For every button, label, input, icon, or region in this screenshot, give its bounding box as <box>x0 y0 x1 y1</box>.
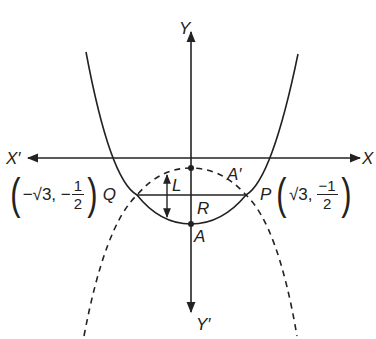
point-q-coordinate: ( −√3, − 1 2 ) Q <box>8 172 119 216</box>
p-y-numerator: −1 <box>317 178 338 195</box>
left-paren: ( <box>277 172 287 216</box>
right-paren: ) <box>87 172 97 216</box>
y-prime-axis-label: Y′ <box>196 316 211 333</box>
x-prime-axis-label: X′ <box>6 150 21 167</box>
point-p-coordinate: P ( √3, −1 2 ) <box>257 172 353 216</box>
point-a-prime-dot <box>188 165 194 171</box>
q-y-fraction: 1 2 <box>72 178 84 211</box>
point-p-label: P <box>260 186 271 203</box>
y-axis-label: Y <box>179 20 190 37</box>
parabola-diagram <box>0 0 376 339</box>
p-y-denominator: 2 <box>323 195 331 211</box>
x-axis-label: X <box>362 150 373 167</box>
p-x-value: √3, <box>289 186 313 203</box>
point-a-label: A <box>194 228 205 245</box>
right-paren: ) <box>341 172 351 216</box>
left-paren: ( <box>10 172 20 216</box>
point-q-label: Q <box>103 186 116 203</box>
p-y-fraction: −1 2 <box>317 178 338 211</box>
point-l-label: L <box>172 177 181 194</box>
q-x-value: −√3, − <box>23 186 71 203</box>
q-y-numerator: 1 <box>72 178 84 195</box>
q-y-denominator: 2 <box>74 195 82 211</box>
point-a-prime-label: A′ <box>227 166 242 183</box>
point-r-label: R <box>197 200 209 217</box>
